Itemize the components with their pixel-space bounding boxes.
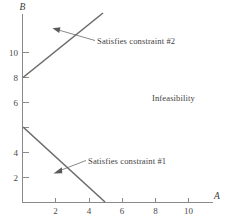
- constraint-2-label: Satisfies constraint #2: [97, 36, 175, 46]
- x-tick-label-8: 8: [153, 206, 158, 216]
- infeasibility-label: Infeasibility: [152, 93, 195, 103]
- x-tick-label-10: 10: [184, 206, 194, 216]
- constraint-1-annotation-arrow: [54, 161, 87, 174]
- x-tick-label-6: 6: [120, 206, 125, 216]
- constraint-feasibility-chart: 2 4 6 8 10 2 4 6 8 10 B A Satisfies cons…: [0, 0, 225, 220]
- chart-canvas: 2 4 6 8 10 2 4 6 8 10 B A: [0, 0, 225, 220]
- y-tick-label-8: 8: [14, 73, 19, 83]
- x-tick-label-4: 4: [87, 206, 92, 216]
- x-tick-label-2: 2: [53, 206, 58, 216]
- constraint-1-label: Satisfies constraint #1: [88, 156, 166, 166]
- y-tick-label-6: 6: [14, 98, 19, 108]
- y-tick-label-4: 4: [14, 148, 19, 158]
- x-axis-title: A: [213, 191, 220, 201]
- y-tick-label-10: 10: [9, 48, 19, 58]
- x-tick-marks: [56, 198, 189, 203]
- y-tick-label-2: 2: [14, 173, 19, 183]
- constraint-2-line: [23, 13, 103, 78]
- y-tick-marks: [23, 53, 29, 178]
- y-axis-title: B: [20, 2, 26, 12]
- constraint-2-annotation-arrow: [53, 27, 96, 40]
